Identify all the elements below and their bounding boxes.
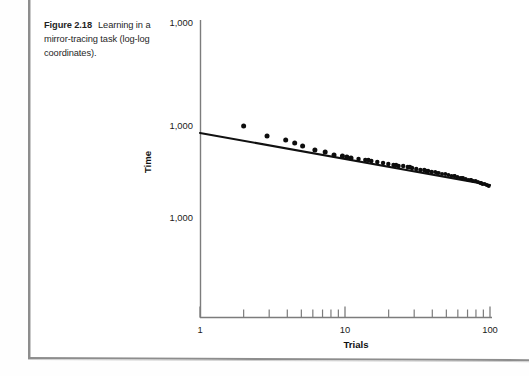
scanned-page: Figure 2.18Learning in a mirror-tracing … [0, 0, 529, 376]
trend-line [200, 133, 490, 185]
x-axis-title: Trials [343, 339, 368, 350]
x-axis-tick-labels: 110100 [197, 324, 497, 335]
scatter-point [283, 138, 288, 143]
y-axis-tick-labels: 1,0001,0001,000 [170, 17, 193, 223]
scatter-point [418, 168, 422, 172]
scatter-point [487, 184, 491, 188]
scatter-point [292, 141, 297, 146]
scatter-point [349, 156, 354, 161]
scatter-point [356, 157, 360, 161]
scatter-point [394, 163, 398, 167]
scatter-point [381, 161, 385, 165]
scatter-point [429, 170, 433, 174]
scatter-point [453, 174, 457, 178]
y-axis-tick-label: 1,000 [170, 120, 193, 131]
scatter-point [375, 160, 379, 164]
chart-axes [200, 20, 492, 318]
scatter-point [460, 176, 464, 180]
scatter-point [386, 162, 390, 166]
x-axis-minor-ticks [244, 310, 484, 318]
scatter-point [414, 167, 418, 171]
scatter-point [479, 181, 483, 185]
x-axis-tick-label: 10 [340, 324, 350, 335]
scatter-point [340, 154, 345, 159]
scatter-point [241, 124, 246, 129]
x-axis-tick-label: 100 [482, 324, 498, 335]
scatter-point [424, 169, 428, 173]
y-axis-title: Time [142, 151, 153, 173]
scatter-point [265, 134, 270, 139]
scatter-point [332, 153, 337, 158]
scatter-point [408, 165, 412, 169]
y-axis-tick-label: 1,000 [170, 17, 193, 28]
figure-chart: 110100 1,0001,0001,000 Trials Time [0, 0, 529, 376]
scatter-point [435, 171, 439, 175]
scatter-point [323, 150, 328, 155]
y-axis-tick-label: 1,000 [170, 212, 193, 223]
scatter-point [312, 148, 317, 153]
x-axis-tick-label: 1 [197, 324, 202, 335]
scatter-point [469, 178, 473, 182]
scatter-point [366, 158, 370, 162]
scatter-point [401, 164, 405, 168]
scatter-point [344, 155, 349, 160]
scatter-point [300, 144, 305, 149]
